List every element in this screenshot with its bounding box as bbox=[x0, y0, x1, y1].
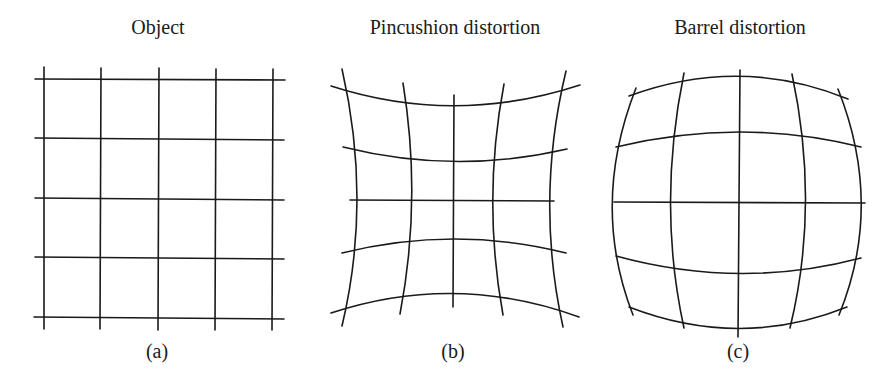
panel-pincushion: Pincushion distortion (b) bbox=[310, 0, 600, 385]
object-grid bbox=[0, 0, 300, 385]
panel-caption-b: (b) bbox=[441, 340, 464, 363]
panel-object: Object (a) bbox=[0, 0, 300, 385]
panel-barrel: Barrel distortion (c) bbox=[600, 0, 891, 385]
panel-caption-c: (c) bbox=[727, 340, 749, 363]
barrel-grid bbox=[600, 0, 891, 385]
pincushion-grid bbox=[310, 0, 600, 385]
panel-caption-a: (a) bbox=[146, 340, 168, 363]
